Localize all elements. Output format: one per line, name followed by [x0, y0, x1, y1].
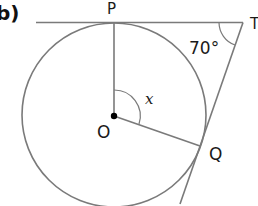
label-o: O	[97, 122, 110, 142]
radius-oq	[114, 116, 200, 146]
center-dot	[111, 113, 117, 119]
circle-tangent-diagram: b) P T O Q 70° x	[0, 0, 258, 206]
angle-label-x: x	[145, 90, 154, 108]
part-label: b)	[0, 1, 19, 25]
label-q: Q	[209, 144, 222, 164]
angle-arc-t	[219, 23, 235, 46]
angle-label-t: 70°	[189, 38, 219, 58]
angle-arc-o	[114, 90, 140, 124]
label-p: P	[107, 0, 116, 18]
label-t: T	[249, 15, 258, 33]
